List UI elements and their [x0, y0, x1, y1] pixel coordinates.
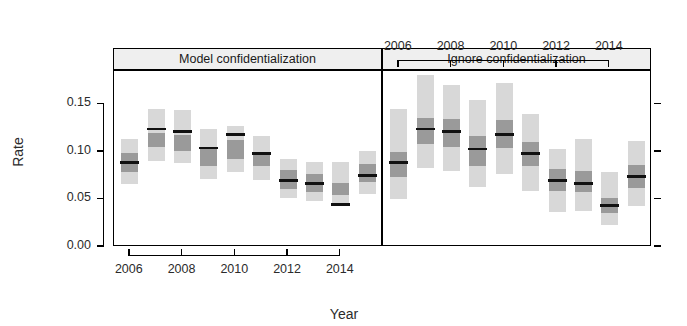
plot-area-model	[114, 71, 381, 245]
point-estimate-line	[358, 174, 377, 177]
x-axis-tick	[555, 60, 556, 67]
inner-interval-band	[148, 133, 165, 147]
inner-interval-band	[174, 135, 191, 151]
interval-glyph	[280, 71, 297, 245]
x-axis-tick-label: 2008	[437, 39, 465, 53]
panel-strip-label: Ignore confidentialization	[447, 52, 585, 66]
x-axis-tick-label: 2010	[220, 262, 248, 276]
y-axis-tick	[97, 103, 104, 104]
y-axis-line	[103, 103, 104, 246]
inner-interval-band	[227, 140, 244, 159]
y-axis-tick	[97, 198, 104, 199]
plot-area-ignore	[383, 71, 650, 245]
interval-glyph	[174, 71, 191, 245]
interval-glyph	[390, 71, 407, 245]
interval-glyph	[148, 71, 165, 245]
x-axis-tick-label: 2008	[168, 262, 196, 276]
point-estimate-line	[120, 161, 139, 164]
x-axis-tick	[397, 60, 398, 67]
interval-glyph	[200, 71, 217, 245]
x-axis-tick	[450, 60, 451, 67]
x-axis-tick-label: 2012	[273, 262, 301, 276]
interval-glyph	[227, 71, 244, 245]
point-estimate-line	[226, 133, 245, 136]
point-estimate-line	[495, 133, 514, 136]
x-axis-title: Year	[330, 306, 358, 322]
interval-glyph	[522, 71, 539, 245]
point-estimate-line	[331, 203, 350, 206]
interval-glyph	[549, 71, 566, 245]
x-axis-tick-label: 2014	[326, 262, 354, 276]
interval-glyph	[417, 71, 434, 245]
x-axis-tick	[608, 60, 609, 67]
point-estimate-line	[147, 128, 166, 131]
inner-interval-band	[253, 154, 270, 166]
y-axis-tick	[97, 150, 104, 151]
x-axis-tick	[128, 249, 129, 256]
x-axis-tick	[339, 249, 340, 256]
point-estimate-line	[389, 161, 408, 164]
interval-glyph	[121, 71, 138, 245]
x-axis-tick-label: 2006	[384, 39, 412, 53]
interval-glyph	[575, 71, 592, 245]
x-axis-tick	[286, 249, 287, 256]
point-estimate-line	[600, 204, 619, 207]
y-axis-tick-label: 0.10	[67, 143, 91, 157]
y-axis-tick	[97, 245, 104, 246]
panel-model-confidentialization	[113, 70, 382, 246]
inner-interval-band	[417, 118, 434, 145]
x-axis-tick-label: 2014	[595, 39, 623, 53]
point-estimate-line	[521, 152, 540, 155]
y-axis-tick-right	[654, 245, 661, 246]
x-axis-tick	[503, 60, 504, 67]
panel-strip-label: Model confidentialization	[179, 52, 316, 66]
x-axis-tick-label: 2012	[542, 39, 570, 53]
inner-interval-band	[200, 149, 217, 166]
interval-glyph	[253, 71, 270, 245]
y-axis-tick-right	[654, 198, 661, 199]
interval-glyph	[332, 71, 349, 245]
point-estimate-line	[468, 148, 487, 151]
panel-ignore-confidentialization	[382, 70, 651, 246]
interval-glyph	[628, 71, 645, 245]
point-estimate-line	[627, 175, 646, 178]
y-axis-tick-right	[654, 150, 661, 151]
point-estimate-line	[199, 147, 218, 150]
interval-glyph	[469, 71, 486, 245]
y-axis-tick-label: 0.15	[67, 95, 91, 109]
y-axis-title: Rate	[10, 137, 26, 167]
point-estimate-line	[279, 179, 298, 182]
y-axis-tick-right	[654, 103, 661, 104]
chart-figure: Rate Year 0.000.050.100.15 Model confide…	[0, 0, 687, 326]
point-estimate-line	[442, 130, 461, 133]
interval-glyph	[601, 71, 618, 245]
point-estimate-line	[252, 152, 271, 155]
y-axis-tick-label: 0.00	[67, 238, 91, 252]
point-estimate-line	[574, 182, 593, 185]
point-estimate-line	[305, 182, 324, 185]
x-axis-tick	[234, 249, 235, 256]
interval-glyph	[306, 71, 323, 245]
point-estimate-line	[416, 128, 435, 131]
interval-glyph	[496, 71, 513, 245]
x-axis-tick	[181, 249, 182, 256]
inner-interval-band	[390, 152, 407, 177]
x-axis-tick-label: 2006	[115, 262, 143, 276]
inner-interval-band	[332, 183, 349, 194]
point-estimate-line	[548, 179, 567, 182]
inner-interval-band	[469, 136, 486, 166]
point-estimate-line	[173, 130, 192, 133]
x-axis-tick-label: 2010	[489, 39, 517, 53]
interval-glyph	[443, 71, 460, 245]
y-axis-tick-label: 0.05	[67, 190, 91, 204]
panel-strip-model: Model confidentialization	[113, 48, 382, 70]
interval-glyph	[359, 71, 376, 245]
